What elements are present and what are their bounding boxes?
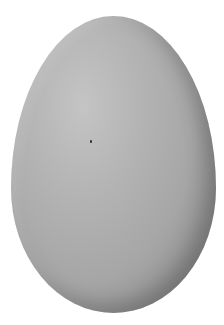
egg-speck — [90, 140, 92, 143]
egg — [11, 16, 216, 313]
